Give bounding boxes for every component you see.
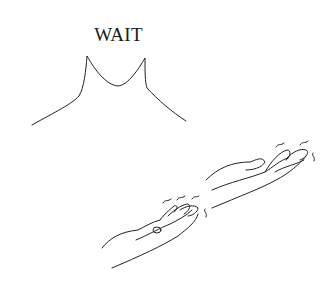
shoulders-outline <box>32 56 186 125</box>
left-hand-icon <box>102 196 206 268</box>
sign-illustration <box>0 0 335 295</box>
right-hand-icon <box>206 141 314 208</box>
